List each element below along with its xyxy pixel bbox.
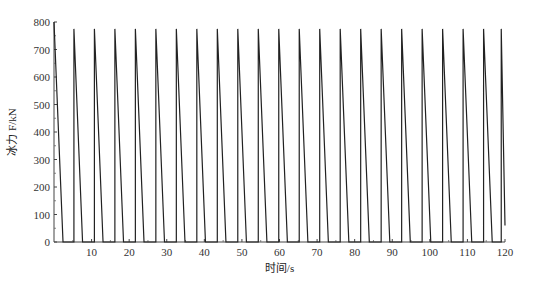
x-tick-label: 40 — [199, 246, 211, 258]
x-tick-label: 100 — [422, 246, 439, 258]
x-tick-label: 50 — [236, 246, 248, 258]
y-tick-label: 600 — [34, 71, 51, 83]
x-tick-label: 80 — [349, 246, 361, 258]
x-tick-label: 110 — [459, 246, 476, 258]
ice-force-series-line — [54, 22, 505, 242]
x-tick-label: 60 — [274, 246, 286, 258]
y-tick-label: 500 — [34, 99, 51, 111]
ticks: 0100200300400500600700800102030405060708… — [34, 16, 514, 258]
y-tick-label: 0 — [45, 236, 51, 248]
x-axis-title: 时间/s — [265, 262, 294, 274]
x-tick-label: 70 — [312, 246, 324, 258]
y-tick-label: 400 — [34, 126, 51, 138]
x-tick-label: 30 — [161, 246, 173, 258]
y-tick-label: 200 — [34, 181, 51, 193]
y-tick-label: 800 — [34, 16, 51, 28]
x-tick-label: 90 — [387, 246, 399, 258]
y-tick-label: 300 — [34, 154, 51, 166]
x-tick-label: 20 — [124, 246, 136, 258]
x-tick-label: 10 — [86, 246, 98, 258]
ice-force-chart: 0100200300400500600700800102030405060708… — [0, 0, 538, 283]
x-tick-label: 120 — [497, 246, 514, 258]
y-axis-title: 冰力 F/kN — [6, 108, 18, 155]
y-tick-label: 100 — [34, 209, 51, 221]
y-tick-label: 700 — [34, 44, 51, 56]
